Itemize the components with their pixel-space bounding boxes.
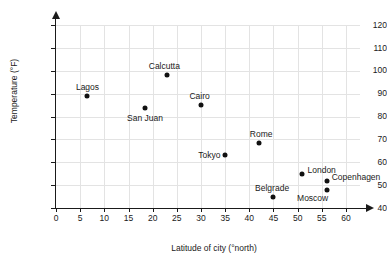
gridline-horizontal: [56, 185, 360, 186]
y-tick-label: 70: [341, 135, 387, 144]
gridline-vertical: [322, 25, 323, 208]
y-tick-label: 120: [341, 21, 387, 30]
y-tick-label: 100: [341, 66, 387, 75]
data-point[interactable]: [165, 73, 170, 78]
y-tick-mark: [51, 208, 55, 209]
y-tick-mark: [51, 25, 55, 26]
gridline-horizontal: [56, 117, 360, 118]
y-tick-mark: [51, 48, 55, 49]
x-tick-mark: [346, 208, 347, 212]
y-tick-mark: [51, 94, 55, 95]
data-point-label: Rome: [250, 130, 273, 139]
data-point[interactable]: [324, 178, 329, 183]
x-tick-mark: [225, 208, 226, 212]
gridline-vertical: [249, 25, 250, 208]
y-tick-label: 60: [341, 158, 387, 167]
data-point[interactable]: [256, 140, 261, 145]
gridline-vertical: [225, 25, 226, 208]
data-point[interactable]: [85, 93, 90, 98]
y-tick-label: 40: [341, 204, 387, 213]
x-tick-mark: [177, 208, 178, 212]
x-tick-mark: [153, 208, 154, 212]
gridline-vertical: [104, 25, 105, 208]
y-axis-arrow-icon: [52, 11, 60, 19]
data-point[interactable]: [223, 153, 228, 158]
x-axis-title: Latitude of city (°north): [94, 243, 334, 253]
x-tick-mark: [129, 208, 130, 212]
x-tick-mark: [249, 208, 250, 212]
gridline-vertical: [201, 25, 202, 208]
gridline-horizontal: [56, 25, 360, 26]
y-tick-label: 80: [341, 112, 387, 121]
data-point[interactable]: [300, 171, 305, 176]
x-tick-mark: [201, 208, 202, 212]
y-tick-mark: [51, 185, 55, 186]
data-point[interactable]: [143, 106, 148, 111]
y-tick-mark: [51, 71, 55, 72]
data-point-label: Copenhagen: [332, 173, 381, 182]
gridline-horizontal: [56, 139, 360, 140]
scatter-plot-figure: LagosSan JuanCalcuttaCairoTokyoRomeBelgr…: [0, 0, 387, 267]
x-tick-mark: [104, 208, 105, 212]
gridline-vertical: [80, 25, 81, 208]
x-tick-mark: [56, 208, 57, 212]
x-tick-mark: [298, 208, 299, 212]
x-tick-label: 60: [331, 214, 361, 223]
plot-area: LagosSan JuanCalcuttaCairoTokyoRomeBelgr…: [56, 25, 360, 208]
x-tick-mark: [80, 208, 81, 212]
gridline-horizontal: [56, 162, 360, 163]
y-axis-line: [55, 18, 56, 208]
data-point-label: Cairo: [189, 92, 209, 101]
data-point-label: Moscow: [297, 194, 328, 203]
data-point-label: Calcutta: [149, 62, 180, 71]
y-tick-mark: [51, 139, 55, 140]
gridline-horizontal: [56, 71, 360, 72]
data-point-label: Lagos: [76, 83, 99, 92]
data-point-label: San Juan: [127, 114, 163, 123]
y-tick-mark: [51, 162, 55, 163]
data-point[interactable]: [271, 194, 276, 199]
data-point-label: Tokyo: [198, 151, 220, 160]
y-tick-mark: [51, 117, 55, 118]
x-tick-mark: [273, 208, 274, 212]
y-tick-label: 50: [341, 181, 387, 190]
gridline-horizontal: [56, 48, 360, 49]
y-axis-title: Temperature (°F): [9, 31, 19, 151]
y-tick-label: 110: [341, 44, 387, 53]
y-tick-label: 90: [341, 89, 387, 98]
gridline-vertical: [177, 25, 178, 208]
data-point-label: Belgrade: [255, 184, 289, 193]
gridline-vertical: [298, 25, 299, 208]
gridline-vertical: [273, 25, 274, 208]
x-tick-mark: [322, 208, 323, 212]
data-point[interactable]: [324, 187, 329, 192]
data-point[interactable]: [198, 103, 203, 108]
